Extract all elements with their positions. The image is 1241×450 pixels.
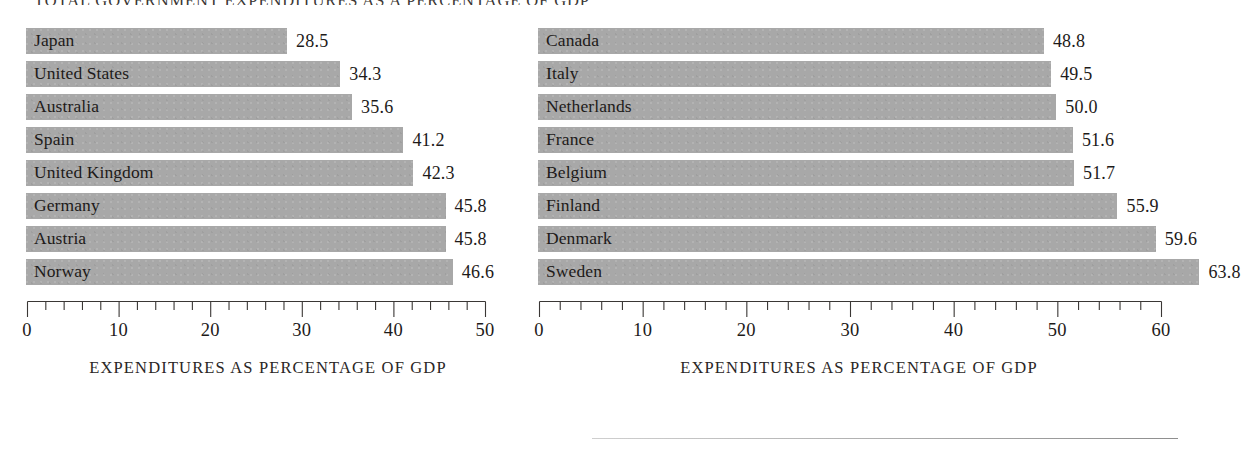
bar-row: Sweden63.8 bbox=[538, 259, 1180, 285]
bar-row: Australia35.6 bbox=[26, 94, 504, 120]
bar-value-label: 34.3 bbox=[349, 65, 381, 83]
bar-category-label: Netherlands bbox=[546, 98, 632, 116]
bar-row: Spain41.2 bbox=[26, 127, 504, 153]
axis-tick-label: 0 bbox=[534, 320, 544, 341]
axis-tick-label: 30 bbox=[840, 320, 859, 341]
axis-tick-label: 0 bbox=[22, 320, 32, 341]
axis-tick-labels-right: 0102030405060 bbox=[538, 318, 1164, 344]
axis-tick-label: 20 bbox=[737, 320, 756, 341]
bar-value-label: 48.8 bbox=[1053, 32, 1085, 50]
figure-title: TOTAL GOVERNMENT EXPENDITURES AS A PERCE… bbox=[34, 0, 1134, 5]
bar-row: Japan28.5 bbox=[26, 28, 504, 54]
bar-row: Germany45.8 bbox=[26, 193, 504, 219]
bar-value-label: 46.6 bbox=[462, 263, 494, 281]
bar-value-label: 42.3 bbox=[422, 164, 454, 182]
bar bbox=[538, 28, 1044, 54]
bar bbox=[26, 226, 446, 252]
bar-category-label: Austria bbox=[34, 230, 86, 248]
bar-category-label: Germany bbox=[34, 197, 100, 215]
axis-tick-label: 40 bbox=[384, 320, 403, 341]
axis-left: 01020304050 EXPENDITURES AS PERCENTAGE O… bbox=[26, 301, 504, 378]
bar-value-label: 28.5 bbox=[296, 32, 328, 50]
bar-row: Norway46.6 bbox=[26, 259, 504, 285]
axis-tick-label: 10 bbox=[109, 320, 128, 341]
axis-tick-label: 50 bbox=[1048, 320, 1067, 341]
bar-value-label: 55.9 bbox=[1126, 197, 1158, 215]
bar-value-label: 49.5 bbox=[1060, 65, 1092, 83]
axis-ticks-left bbox=[26, 301, 488, 318]
bar-value-label: 45.8 bbox=[455, 230, 487, 248]
bar-category-label: United Kingdom bbox=[34, 164, 154, 182]
chart-panel-left: Japan28.5United States34.3Australia35.6S… bbox=[26, 28, 504, 378]
chart-panel-right: Canada48.8Italy49.5Netherlands50.0France… bbox=[538, 28, 1180, 378]
bar bbox=[538, 61, 1051, 87]
footer-rule bbox=[592, 438, 1178, 439]
bar-group-left: Japan28.5United States34.3Australia35.6S… bbox=[26, 28, 504, 285]
bar-category-label: Denmark bbox=[546, 230, 612, 248]
bar-row: Italy49.5 bbox=[538, 61, 1180, 87]
bar-group-right: Canada48.8Italy49.5Netherlands50.0France… bbox=[538, 28, 1180, 285]
axis-tick-label: 30 bbox=[292, 320, 311, 341]
bar-row: Belgium51.7 bbox=[538, 160, 1180, 186]
bar bbox=[538, 193, 1117, 219]
bar-category-label: Norway bbox=[34, 263, 91, 281]
bar-value-label: 35.6 bbox=[361, 98, 393, 116]
bar-row: Netherlands50.0 bbox=[538, 94, 1180, 120]
bar-row: Canada48.8 bbox=[538, 28, 1180, 54]
axis-right: 0102030405060 EXPENDITURES AS PERCENTAGE… bbox=[538, 301, 1180, 378]
bar-value-label: 45.8 bbox=[455, 197, 487, 215]
bar-row: Austria45.8 bbox=[26, 226, 504, 252]
bar-category-label: Australia bbox=[34, 98, 99, 116]
bar-value-label: 50.0 bbox=[1065, 98, 1097, 116]
bar-category-label: France bbox=[546, 131, 594, 149]
bar-value-label: 51.6 bbox=[1082, 131, 1114, 149]
axis-caption-right: EXPENDITURES AS PERCENTAGE OF GDP bbox=[538, 358, 1180, 378]
axis-ticks-right bbox=[538, 301, 1164, 318]
bar-value-label: 41.2 bbox=[412, 131, 444, 149]
bar bbox=[538, 160, 1074, 186]
bar bbox=[538, 127, 1073, 153]
bar-row: Finland55.9 bbox=[538, 193, 1180, 219]
axis-tick-label: 50 bbox=[475, 320, 494, 341]
bar bbox=[26, 127, 403, 153]
bar-row: United States34.3 bbox=[26, 61, 504, 87]
bar-value-label: 63.8 bbox=[1208, 263, 1240, 281]
bar-category-label: Belgium bbox=[546, 164, 607, 182]
bar-category-label: Spain bbox=[34, 131, 74, 149]
axis-tick-label: 10 bbox=[633, 320, 652, 341]
bar-category-label: Italy bbox=[546, 65, 579, 83]
axis-tick-label: 40 bbox=[944, 320, 963, 341]
bar-category-label: Japan bbox=[34, 32, 74, 50]
axis-tick-label: 60 bbox=[1151, 320, 1170, 341]
bar-value-label: 51.7 bbox=[1083, 164, 1115, 182]
axis-tick-labels-left: 01020304050 bbox=[26, 318, 488, 344]
bar-row: United Kingdom42.3 bbox=[26, 160, 504, 186]
bar-category-label: United States bbox=[34, 65, 129, 83]
bar-category-label: Sweden bbox=[546, 263, 602, 281]
axis-tick-label: 20 bbox=[201, 320, 220, 341]
bar-category-label: Canada bbox=[546, 32, 599, 50]
axis-caption-left: EXPENDITURES AS PERCENTAGE OF GDP bbox=[26, 358, 504, 378]
bar bbox=[538, 259, 1199, 285]
bar-category-label: Finland bbox=[546, 197, 600, 215]
bar-row: France51.6 bbox=[538, 127, 1180, 153]
bar bbox=[538, 226, 1156, 252]
bar-value-label: 59.6 bbox=[1165, 230, 1197, 248]
bar-row: Denmark59.6 bbox=[538, 226, 1180, 252]
